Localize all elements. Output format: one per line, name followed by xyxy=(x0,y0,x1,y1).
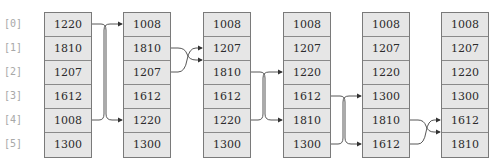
swap-arrow xyxy=(92,24,122,120)
swap-arrow xyxy=(171,48,202,60)
swap-arrow xyxy=(92,24,122,120)
swap-arrows xyxy=(0,0,499,167)
swap-arrow xyxy=(331,96,361,144)
swap-arrow xyxy=(410,120,440,132)
swap-arrow xyxy=(331,96,361,144)
swap-arrow xyxy=(251,72,282,120)
swap-arrow xyxy=(251,72,282,120)
